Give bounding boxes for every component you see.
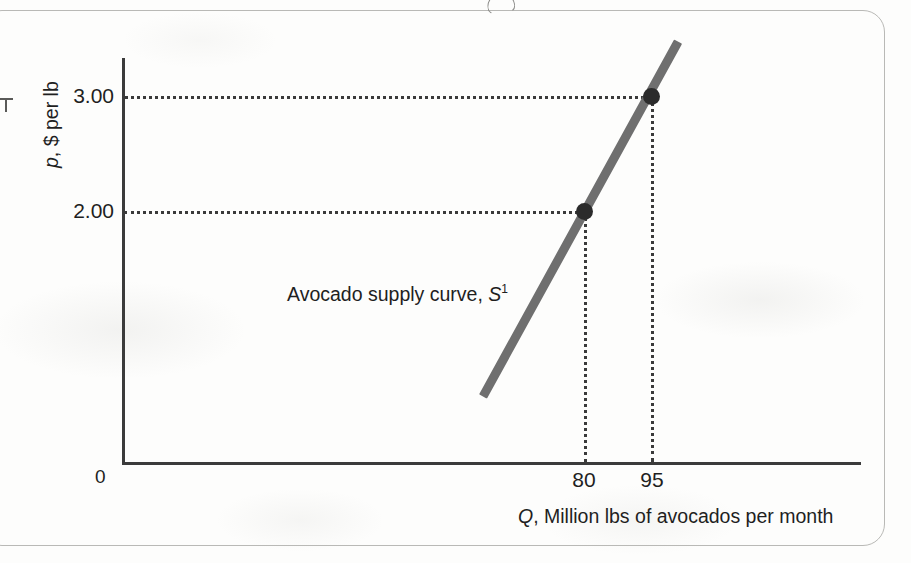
y-axis-title-variable: p xyxy=(40,157,62,168)
y-axis-title: p, $ per lb xyxy=(40,81,63,168)
x-axis-title: Q, Million lbs of avocados per month xyxy=(518,505,833,528)
origin-label: 0 xyxy=(95,466,106,488)
plot-area: 3.00 2.00 80 95 0 p, $ per lb Q, Million… xyxy=(0,0,911,563)
supply-curve-symbol: S xyxy=(488,283,501,305)
x-axis-title-units: , Million lbs of avocados per month xyxy=(533,505,833,527)
gridline-quantity-80 xyxy=(584,211,587,462)
x-axis-title-variable: Q xyxy=(518,505,533,527)
y-axis-line xyxy=(122,58,125,464)
data-point-80-2-00 xyxy=(576,203,593,220)
x-tick-label-95: 95 xyxy=(622,468,682,492)
y-axis-title-units: , $ per lb xyxy=(40,81,62,157)
supply-curve-annotation: Avocado supply curve, S1 xyxy=(287,282,508,306)
x-tick-label-80: 80 xyxy=(554,468,614,492)
supply-curve-superscript: 1 xyxy=(501,282,508,296)
gridline-quantity-95 xyxy=(651,96,654,462)
figure-page: 3.00 2.00 80 95 0 p, $ per lb Q, Million… xyxy=(0,0,911,563)
supply-curve-annotation-text: Avocado supply curve, xyxy=(287,283,488,305)
y-tick-label-2-00: 2.00 xyxy=(50,199,114,223)
gridline-price-2-00 xyxy=(124,211,585,214)
gridline-price-3-00 xyxy=(124,96,652,99)
data-point-95-3-00 xyxy=(643,88,660,105)
x-axis-line xyxy=(122,462,861,465)
